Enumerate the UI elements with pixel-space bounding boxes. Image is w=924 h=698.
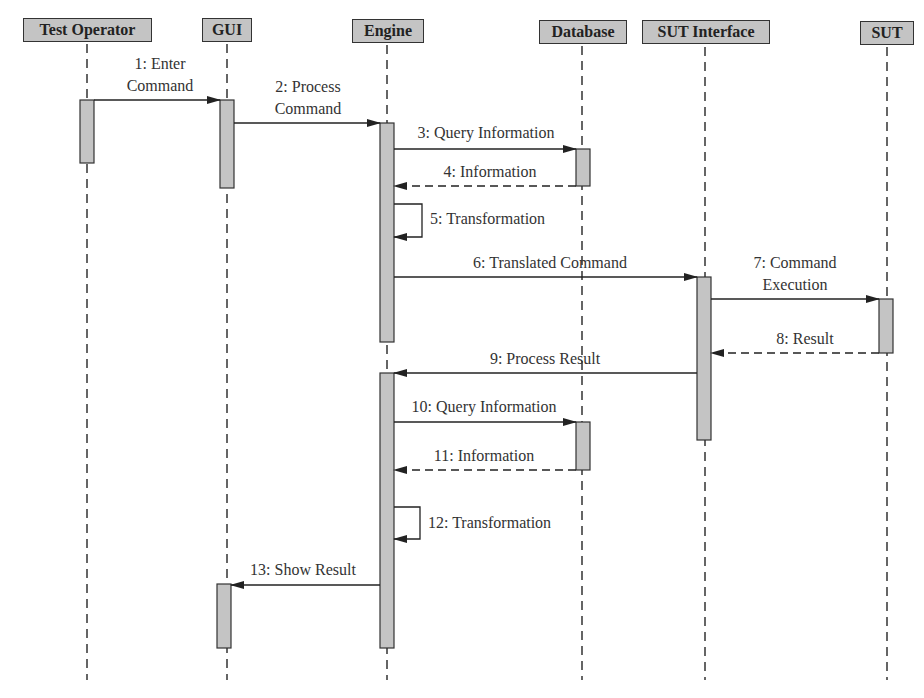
activation-gui-1 bbox=[220, 100, 234, 188]
message-label-13: 13: Show Result bbox=[238, 559, 368, 581]
activation-test-operator bbox=[80, 100, 94, 163]
message-arrow-12 bbox=[394, 507, 420, 539]
message-label-2-line1: 2: Process bbox=[258, 76, 358, 98]
message-label-2: 2: Process Command bbox=[258, 76, 358, 120]
participant-sut: SUT bbox=[860, 21, 914, 45]
message-label-7-line2: Execution bbox=[740, 274, 850, 296]
activation-engine-1 bbox=[380, 123, 394, 342]
message-label-1: 1: Enter Command bbox=[110, 53, 210, 97]
message-label-1-line2: Command bbox=[110, 75, 210, 97]
message-label-10: 10: Query Information bbox=[393, 396, 575, 418]
activation-engine-2 bbox=[380, 373, 394, 648]
message-label-7-line1: 7: Command bbox=[740, 252, 850, 274]
activation-sut-interface bbox=[697, 277, 711, 440]
activation-database-2 bbox=[576, 422, 590, 470]
message-label-3: 3: Query Information bbox=[400, 122, 572, 144]
activation-sut bbox=[879, 299, 893, 353]
message-label-6: 6: Translated Command bbox=[450, 252, 650, 274]
message-label-12: 12: Transformation bbox=[428, 512, 578, 534]
message-arrow-5 bbox=[394, 204, 422, 237]
message-label-8: 8: Result bbox=[760, 328, 850, 350]
message-label-2-line2: Command bbox=[258, 98, 358, 120]
message-label-7: 7: Command Execution bbox=[740, 252, 850, 296]
activation-database-1 bbox=[576, 149, 590, 186]
message-label-1-line1: 1: Enter bbox=[110, 53, 210, 75]
participant-sut-interface: SUT Interface bbox=[642, 20, 770, 44]
message-label-9: 9: Process Result bbox=[470, 348, 620, 370]
participant-test-operator: Test Operator bbox=[23, 18, 152, 42]
activation-gui-2 bbox=[217, 584, 231, 648]
participant-database: Database bbox=[539, 20, 627, 44]
participant-gui: GUI bbox=[202, 18, 252, 42]
participant-engine: Engine bbox=[352, 19, 424, 43]
message-label-5: 5: Transformation bbox=[430, 208, 570, 230]
message-label-11: 11: Information bbox=[414, 445, 554, 467]
message-label-4: 4: Information bbox=[420, 161, 560, 183]
